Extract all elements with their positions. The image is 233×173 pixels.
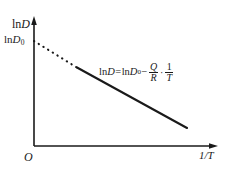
equation-ln-2: ln [122, 67, 130, 78]
extrapolation-dotted-line [34, 41, 79, 69]
y-axis-title: lnD [12, 18, 30, 30]
equation-equals: = [115, 67, 122, 78]
fraction-t-denominator: T [165, 72, 173, 83]
y-tick-var: D [13, 33, 21, 45]
x-axis [34, 143, 218, 149]
y-axis-title-var: D [21, 17, 30, 31]
y-axis [31, 16, 37, 146]
y-axis-title-fn: ln [12, 17, 21, 31]
equation-cdot: · [160, 68, 163, 78]
fraction-one-numerator: 1 [166, 62, 173, 72]
arrhenius-plot-figure: lnD lnD0 O 1/T lnD=lnD0− Q R · 1 T [0, 0, 233, 173]
equation-minus: − [141, 67, 148, 78]
equation-annotation: lnD=lnD0− Q R · 1 T [99, 62, 174, 83]
plot-canvas [0, 0, 233, 173]
y-tick-fn: ln [4, 33, 13, 45]
fraction-q-over-r: Q R [149, 62, 158, 83]
fraction-one-over-t: 1 T [165, 62, 173, 83]
fraction-q-numerator: Q [149, 62, 158, 72]
y-tick-subscript: 0 [21, 38, 25, 47]
y-axis-arrowhead [31, 16, 37, 25]
fraction-r-denominator: R [149, 72, 157, 83]
origin-label: O [24, 151, 33, 163]
equation-var-2: D [130, 67, 138, 78]
equation-var-1: D [107, 67, 115, 78]
equation-ln-1: ln [99, 67, 107, 78]
x-axis-arrowhead [209, 143, 218, 149]
x-axis-title: 1/T [199, 150, 214, 161]
y-axis-tick-label: lnD0 [4, 34, 25, 47]
